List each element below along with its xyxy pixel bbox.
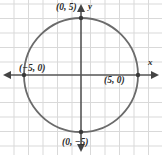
point-label-left: (−5, 0) bbox=[19, 64, 45, 74]
y-axis-label: y bbox=[88, 2, 92, 11]
point-label-right: (5, 0) bbox=[104, 76, 125, 86]
point-label-top: (0, 5) bbox=[56, 3, 77, 13]
arrow-left bbox=[3, 71, 11, 79]
circle-graph-figure: (0, 5) (−5, 0) (5, 0) (0, −5) x y bbox=[0, 0, 162, 155]
point-right bbox=[136, 73, 140, 77]
x-axis-label: x bbox=[148, 58, 153, 67]
coordinate-plane-svg bbox=[0, 0, 162, 155]
point-label-bottom: (0, −5) bbox=[62, 138, 88, 148]
arrow-right bbox=[151, 71, 159, 79]
point-top bbox=[79, 16, 83, 20]
arrow-up bbox=[77, 4, 85, 12]
point-bottom bbox=[79, 130, 83, 134]
